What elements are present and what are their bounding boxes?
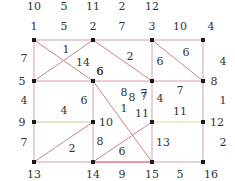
node-11-dot [150, 120, 154, 124]
edge-weight-label: 4 [61, 104, 68, 117]
node-label: 16 [204, 168, 218, 181]
node-label: 3 [149, 20, 156, 33]
node-6-dot [91, 79, 95, 83]
node-7-dot [150, 79, 154, 83]
edge-weight-label: 10 [173, 20, 187, 33]
graph-canvas: 5710714126646874614141172861329512345678… [0, 0, 235, 181]
node-label: 12 [210, 116, 224, 129]
node-label: 6 [97, 65, 104, 78]
node-label: 4 [208, 20, 215, 33]
node-label: 10 [99, 116, 113, 129]
node-15-dot [150, 160, 154, 164]
extra-label: 5 [61, 0, 68, 13]
node-1-dot [32, 38, 36, 42]
edge-weight-label: 13 [156, 136, 170, 149]
node-label: 11 [135, 107, 149, 120]
node-5-dot [32, 79, 36, 83]
extra-label: 12 [145, 0, 159, 13]
edge-weight-label: 6 [183, 46, 190, 59]
edge-weight-label: 8 [121, 86, 128, 99]
edge-weight-label: 6 [119, 145, 126, 158]
edge-weight-label: 8 [97, 135, 104, 148]
edge-weight-label: 14 [76, 56, 90, 69]
node-12-dot [201, 120, 205, 124]
node-8-dot [201, 79, 205, 83]
node-label: 1 [31, 20, 38, 33]
extra-label: 10 [27, 0, 41, 13]
edge-weight-label: 7 [177, 84, 184, 97]
node-label: 8 [211, 75, 218, 88]
edge-weight-label: 4 [21, 94, 28, 107]
edge-weight-label: 4 [157, 92, 164, 105]
edges-layer [34, 40, 203, 162]
edge-weight-label: 9 [119, 168, 126, 181]
edge-weight-label: 1 [63, 43, 70, 56]
edge-weight-label: 7 [21, 136, 28, 149]
node-label: 9 [19, 116, 26, 129]
node-13-dot [32, 160, 36, 164]
edge-weight-label: 1 [121, 102, 128, 115]
edge-weight-label: 5 [61, 20, 68, 33]
node-label: 5 [19, 75, 26, 88]
extra-label: 11 [86, 0, 100, 13]
node-label: 14 [86, 168, 100, 181]
node-label: 13 [27, 168, 41, 181]
edge-weight-label: 2 [220, 136, 227, 149]
edge-weight-label: 2 [69, 142, 76, 155]
labels-layer: 5710714126646874614141172861329512345678… [19, 0, 227, 181]
edge-10-13 [34, 122, 93, 162]
node-9-dot [32, 120, 36, 124]
node-14-dot [91, 160, 95, 164]
extra-label: 7 [141, 90, 148, 103]
edge-weight-label: 7 [21, 52, 28, 65]
extra-label: 2 [119, 0, 126, 13]
node-4-dot [201, 38, 205, 42]
node-3-dot [150, 38, 154, 42]
edge-weight-label: 4 [220, 55, 227, 68]
edge-weight-label: 11 [173, 105, 187, 118]
node-label: 15 [145, 168, 159, 181]
edge-weight-label: 7 [119, 20, 126, 33]
node-label: 2 [90, 20, 97, 33]
edge-weight-label: 2 [127, 50, 134, 63]
weighted-graph-diagram: 5710714126646874614141172861329512345678… [0, 0, 235, 181]
edge-weight-label: 5 [177, 168, 184, 181]
edge-weight-label: 6 [157, 55, 164, 68]
edge-weight-label: 6 [81, 94, 88, 107]
edge-weight-label: 1 [220, 94, 227, 107]
node-2-dot [91, 38, 95, 42]
node-10-dot [91, 120, 95, 124]
extra-label: 8 [129, 91, 136, 104]
node-16-dot [201, 160, 205, 164]
